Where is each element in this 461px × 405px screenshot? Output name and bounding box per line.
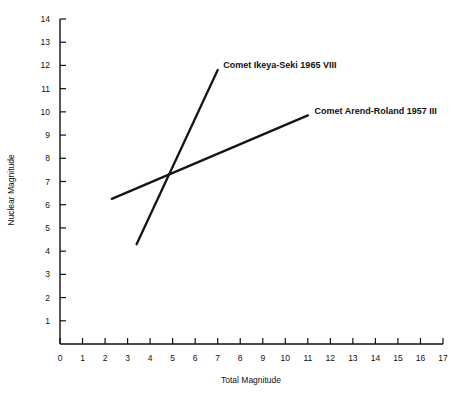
x-tick-label: 11 (303, 353, 312, 363)
x-tick-label: 9 (260, 353, 265, 363)
y-tick-label: 9 (45, 130, 50, 140)
x-tick-label: 0 (58, 353, 63, 363)
x-axis-tick-labels: 01234567891011121314151617 (58, 353, 448, 363)
chart-container: 01234567891011121314151617 1234567891011… (0, 0, 461, 405)
x-axis-ticks (60, 338, 443, 344)
y-tick-label: 5 (45, 223, 50, 233)
y-axis-ticks (60, 19, 66, 321)
x-tick-label: 8 (238, 353, 243, 363)
x-tick-label: 10 (281, 353, 291, 363)
x-tick-label: 2 (103, 353, 108, 363)
x-tick-label: 3 (125, 353, 130, 363)
y-axis-title: Nuclear Magnitude (6, 154, 16, 226)
y-tick-label: 12 (41, 60, 51, 70)
x-axis-title: Total Magnitude (221, 375, 281, 385)
y-tick-label: 1 (45, 316, 50, 326)
series-line-0 (137, 70, 218, 244)
x-tick-label: 13 (348, 353, 358, 363)
x-tick-label: 14 (371, 353, 381, 363)
x-tick-label: 1 (80, 353, 85, 363)
y-tick-label: 6 (45, 200, 50, 210)
x-tick-label: 17 (438, 353, 448, 363)
y-tick-label: 4 (45, 246, 50, 256)
series-annotations-group: Comet Ikeya-Seki 1965 VIIIComet Arend-Ro… (223, 60, 436, 115)
x-tick-label: 5 (170, 353, 175, 363)
y-tick-label: 8 (45, 153, 50, 163)
x-tick-label: 15 (393, 353, 403, 363)
y-tick-label: 14 (41, 14, 51, 24)
line-chart: 01234567891011121314151617 1234567891011… (0, 0, 461, 405)
y-tick-label: 10 (41, 107, 51, 117)
series-label-1: Comet Arend-Roland 1957 III (315, 106, 437, 116)
series-line-1 (112, 115, 308, 199)
x-tick-label: 6 (193, 353, 198, 363)
y-tick-label: 11 (41, 84, 50, 94)
y-tick-label: 7 (45, 177, 50, 187)
series-label-0: Comet Ikeya-Seki 1965 VIII (223, 60, 336, 70)
x-tick-label: 16 (416, 353, 426, 363)
x-tick-label: 12 (326, 353, 336, 363)
y-tick-label: 3 (45, 269, 50, 279)
x-tick-label: 4 (148, 353, 153, 363)
x-tick-label: 7 (215, 353, 220, 363)
data-series-group (112, 70, 308, 244)
y-axis-tick-labels: 1234567891011121314 (41, 14, 51, 326)
y-tick-label: 2 (45, 293, 50, 303)
y-tick-label: 13 (41, 37, 51, 47)
